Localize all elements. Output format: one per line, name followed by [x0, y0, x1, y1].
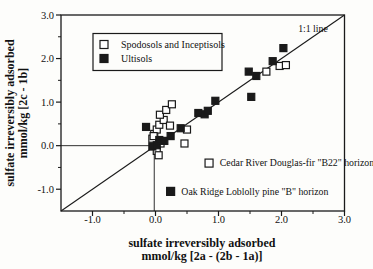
x-tick-label: 0.0 [149, 214, 162, 225]
y-tick-label: 0.0 [41, 140, 54, 151]
filled-square-marker-icon [100, 55, 108, 63]
data-point-filled-square [280, 45, 287, 52]
annotation-label: Oak Ridge Loblolly pine "B" horizon [181, 186, 328, 197]
open-square-marker-icon [100, 41, 108, 49]
data-point-open-square [155, 152, 162, 159]
x-tick-label: 1.0 [212, 214, 225, 225]
data-point-open-square [282, 62, 289, 69]
scatter-chart: 1:1 line-1.00.01.02.03.0-1.00.01.02.03.0… [0, 0, 373, 269]
data-point-filled-square [143, 123, 150, 130]
open-square-marker-icon [205, 159, 213, 167]
data-point-open-square [166, 122, 173, 129]
data-point-filled-square [253, 72, 260, 79]
x-tick-label: -1.0 [84, 214, 101, 225]
legend-label: Ultisols [121, 53, 152, 64]
data-point-filled-square [204, 107, 211, 114]
x-axis-label-line2: mmol/kg [2a - (2b - 1a)] [142, 249, 263, 263]
x-tick-label: 3.0 [338, 214, 351, 225]
y-tick-label: 3.0 [41, 10, 54, 21]
data-point-filled-square [245, 68, 252, 75]
one-to-one-line-label: 1:1 line [298, 23, 328, 34]
filled-square-marker-icon [167, 187, 175, 195]
data-point-filled-square [248, 93, 255, 100]
data-point-filled-square [212, 97, 219, 104]
data-point-open-square [168, 101, 175, 108]
annotation-label: Cedar River Douglas-fir "B22" horizon [220, 157, 373, 168]
x-tick-label: 2.0 [275, 214, 288, 225]
y-axis-label-line2: mmol/kg [2c - 1b] [16, 68, 30, 158]
data-point-open-square [181, 140, 188, 147]
x-axis-label-line1: sulfate irreversibly adsorbed [128, 236, 275, 250]
legend-label: Spodosols and Inceptisols [121, 39, 225, 50]
y-tick-label: -1.0 [37, 184, 54, 195]
figure-container: 1:1 line-1.00.01.02.03.0-1.00.01.02.03.0… [0, 0, 373, 269]
y-tick-label: 2.0 [41, 53, 54, 64]
data-point-open-square [263, 68, 270, 75]
data-point-filled-square [269, 58, 276, 65]
data-point-filled-square [177, 125, 184, 132]
y-tick-label: 1.0 [41, 97, 54, 108]
data-point-filled-square [167, 133, 174, 140]
